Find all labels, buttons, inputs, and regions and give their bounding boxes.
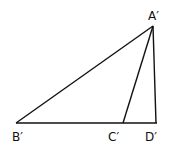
label-c: C′ bbox=[108, 130, 119, 144]
label-b: B′ bbox=[12, 130, 23, 144]
segment-a-d bbox=[153, 26, 156, 123]
segment-a-c bbox=[123, 26, 153, 123]
label-d: D′ bbox=[145, 130, 157, 144]
label-a: A′ bbox=[148, 9, 159, 23]
segment-a-b bbox=[16, 26, 153, 123]
triangle-diagram: A′ B′ C′ D′ bbox=[0, 0, 171, 147]
